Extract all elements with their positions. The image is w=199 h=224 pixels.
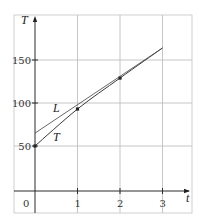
axes bbox=[14, 16, 190, 213]
labels: T t 0 L T 12350100150 bbox=[12, 13, 190, 209]
x-tick-label-1: 1 bbox=[75, 198, 81, 209]
data-point-t0 bbox=[33, 144, 36, 147]
y-tick-label-50: 50 bbox=[18, 141, 31, 152]
y-tick-label-150: 150 bbox=[12, 55, 31, 66]
line-L-label: L bbox=[52, 101, 60, 115]
curve-T-label: T bbox=[53, 130, 61, 144]
plot-border bbox=[14, 15, 192, 213]
x-tick-label-2: 2 bbox=[117, 198, 123, 209]
data-point-t1 bbox=[76, 107, 79, 110]
x-axis-label: t bbox=[186, 191, 190, 205]
origin-label: 0 bbox=[23, 198, 29, 209]
line-L bbox=[35, 48, 163, 133]
chart-canvas: T t 0 L T 12350100150 bbox=[0, 0, 199, 224]
y-axis-arrow-icon bbox=[33, 16, 37, 22]
chart-frame bbox=[14, 15, 192, 213]
x-tick-label-3: 3 bbox=[160, 198, 166, 209]
y-tick-label-100: 100 bbox=[12, 98, 31, 109]
grid-lines bbox=[14, 15, 192, 213]
